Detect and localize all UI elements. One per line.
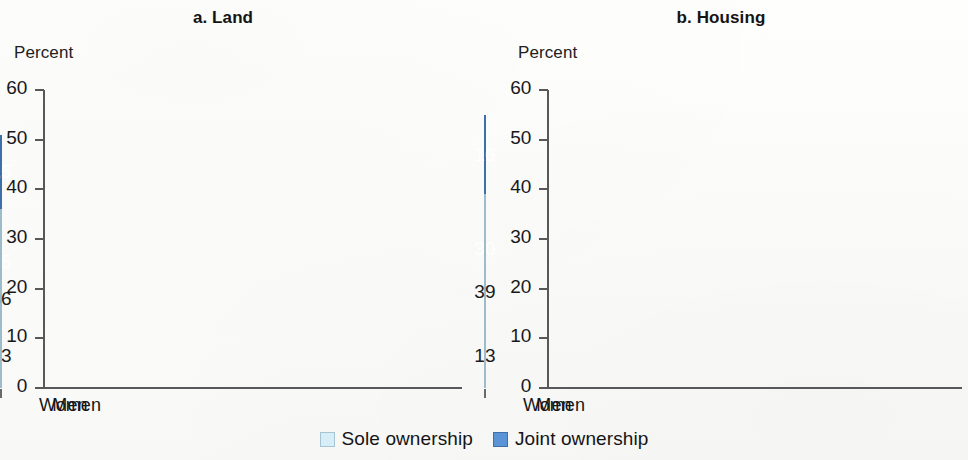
y-axis-tick	[539, 387, 548, 389]
y-axis-tick	[539, 89, 548, 91]
y-axis-tick-label: 0	[0, 375, 27, 397]
y-axis-tick-label: 50	[491, 127, 531, 149]
y-axis-tick	[539, 188, 548, 190]
legend-swatch-square-joint	[493, 432, 508, 447]
legend-label-sole: Sole ownership	[342, 428, 473, 450]
plot-area-land: 01020304050601325Women3615Men	[0, 0, 484, 420]
y-axis-tick-label: 10	[491, 325, 531, 347]
bar-value-label: 15	[0, 162, 12, 181]
legend-swatch-square-sole	[320, 432, 335, 447]
y-axis-tick-label: 40	[491, 176, 531, 198]
y-axis-tick	[35, 89, 44, 91]
bar-segment-men-joint-ownership: 15	[0, 135, 2, 210]
y-axis-tick	[35, 337, 44, 339]
figure-root: a. Land Percent 01020304050601325Women36…	[0, 0, 968, 460]
y-axis-tick-label: 50	[0, 127, 27, 149]
y-axis-tick	[35, 188, 44, 190]
legend-item-joint-ownership: Joint ownership	[493, 428, 649, 450]
y-axis-tick-label: 20	[491, 276, 531, 298]
x-axis-category-label-men: Men	[484, 395, 624, 416]
chart-panel-housing: b. Housing Percent 01020304050601330Wome…	[484, 0, 968, 420]
plot-area-housing: 01020304050601330Women3916Men	[484, 0, 968, 420]
y-axis-tick	[35, 387, 44, 389]
y-axis-tick	[35, 139, 44, 141]
legend-item-sole-ownership: Sole ownership	[320, 428, 473, 450]
x-axis-line	[43, 387, 462, 389]
y-axis-tick	[35, 288, 44, 290]
y-axis-tick-label: 30	[0, 226, 27, 248]
x-axis-line	[547, 387, 962, 389]
bar-value-label: 36	[0, 289, 12, 308]
chart-panel-land: a. Land Percent 01020304050601325Women36…	[0, 0, 484, 420]
legend-label-joint: Joint ownership	[515, 428, 649, 450]
y-axis-tick	[539, 337, 548, 339]
y-axis-tick-label: 0	[491, 375, 531, 397]
y-axis-tick-label: 30	[491, 226, 531, 248]
bar-segment-men-sole-ownership: 36	[0, 209, 2, 388]
y-axis-tick	[35, 238, 44, 240]
x-axis-category-label-men: Men	[0, 395, 140, 416]
y-axis-tick-label: 10	[0, 325, 27, 347]
y-axis-tick-label: 60	[491, 77, 531, 99]
bar-value-label: 16	[474, 145, 496, 164]
bar-segment-men-joint-ownership: 16	[484, 115, 486, 194]
bar-segment-men-sole-ownership: 39	[484, 194, 486, 388]
chart-legend: Sole ownership Joint ownership	[0, 428, 968, 450]
y-axis-tick	[539, 238, 548, 240]
y-axis-tick	[539, 139, 548, 141]
bar-value-label: 39	[474, 282, 496, 301]
y-axis-tick-label: 60	[0, 77, 27, 99]
y-axis-tick	[539, 288, 548, 290]
